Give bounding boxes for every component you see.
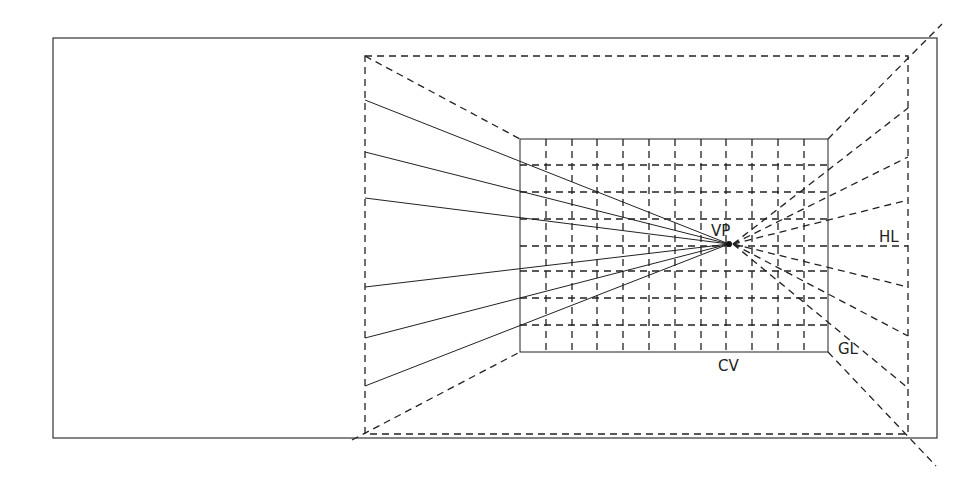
corner-diagonals <box>352 24 942 466</box>
right-ray-line <box>733 108 908 244</box>
back-wall-rect <box>520 139 828 352</box>
vanishing-point-marker <box>726 241 732 247</box>
right-ray-line <box>733 244 908 336</box>
right-dashed-rays <box>733 108 908 388</box>
label-gl: GL <box>838 340 859 358</box>
label-vp: VP <box>711 222 730 240</box>
corner-diagonal-line <box>352 352 520 440</box>
left-ray-line <box>365 100 729 244</box>
perspective-diagram: VP HL GL CV <box>0 0 970 484</box>
right-ray-line <box>733 244 908 287</box>
corner-diagonal-line <box>828 352 936 466</box>
picture-plane-dashed-rect <box>365 56 908 434</box>
corner-diagonal-line <box>828 24 942 139</box>
label-cv: CV <box>718 357 739 375</box>
label-hl: HL <box>879 228 899 246</box>
corner-diagonal-line <box>365 56 520 139</box>
